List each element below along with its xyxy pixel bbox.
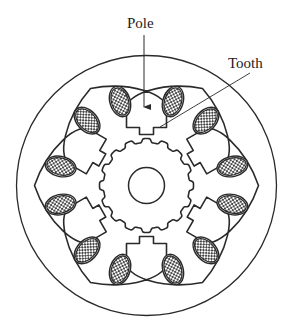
pole-label: Pole	[127, 16, 154, 31]
stator-inner-outline	[35, 86, 259, 284]
stepper-motor-diagram	[0, 0, 296, 329]
stator-outer-circle	[17, 56, 277, 316]
rotor	[100, 139, 194, 233]
shaft-hole	[129, 168, 165, 204]
tooth-label: Tooth	[228, 56, 263, 71]
coil-group	[43, 84, 250, 288]
